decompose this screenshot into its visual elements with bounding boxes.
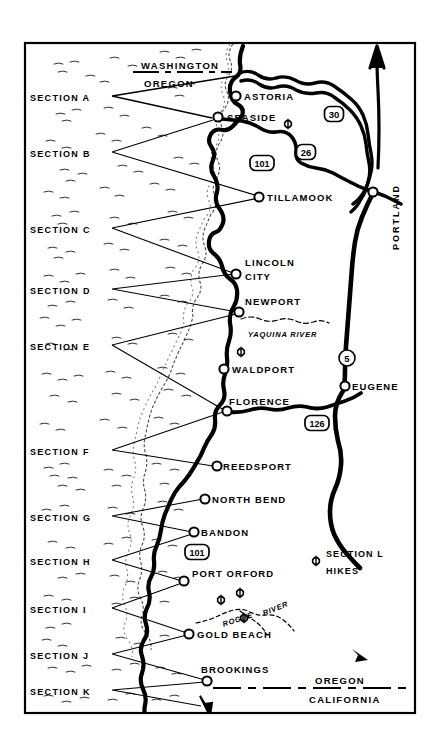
section-label-c[interactable]: SECTION C — [30, 225, 91, 235]
section-label-j[interactable]: SECTION J — [30, 651, 89, 661]
river-label-yaquina-river: YAQUINA RIVER — [248, 330, 317, 339]
oregon-coast-map: 30261015126101 SECTION ASECTION BSECTION… — [0, 0, 437, 753]
city-label-seaside: SEASIDE — [227, 112, 276, 123]
state-label-washington-0: WASHINGTON — [141, 60, 219, 71]
city-label-waldport: WALDPORT — [232, 364, 295, 375]
city-label-bandon: BANDON — [201, 527, 249, 538]
city-dot-gold-beach[interactable] — [184, 629, 193, 638]
state-label-california-1: CALIFORNIA — [309, 694, 381, 705]
section-label-f[interactable]: SECTION F — [30, 447, 90, 457]
highway-shield-number: 5 — [344, 353, 350, 364]
city-dot-brookings[interactable] — [202, 676, 211, 685]
section-label-k[interactable]: SECTION K — [30, 687, 91, 697]
highway-shield-us-101[interactable]: 101 — [250, 156, 274, 171]
city-dot-bandon[interactable] — [189, 527, 198, 536]
city-label-tillamook: TILLAMOOK — [267, 192, 333, 203]
highway-shield-number: 101 — [254, 159, 269, 169]
section-label-b[interactable]: SECTION B — [30, 149, 91, 159]
city-dot-waldport[interactable] — [219, 364, 228, 373]
highway-shield-number: 30 — [329, 109, 340, 120]
section-label-g[interactable]: SECTION G — [30, 513, 91, 523]
city-dot-astoria[interactable] — [231, 91, 240, 100]
city-dot-lincoln[interactable] — [231, 269, 240, 278]
highway-shield-us-101[interactable]: 101 — [185, 545, 209, 560]
state-label-oregon-1: OREGON — [315, 675, 365, 686]
city-label-reedsport: REEDSPORT — [223, 461, 292, 472]
legend-section-l-line2: HIKES — [326, 566, 359, 576]
legend-section-l-line1: SECTION L — [326, 549, 384, 559]
city-label-north-bend: NORTH BEND — [212, 494, 286, 505]
city-dot-newport[interactable] — [234, 307, 243, 316]
city-dot-north-bend[interactable] — [200, 494, 209, 503]
city-label-newport: NEWPORT — [245, 296, 301, 307]
city-dot-reedsport[interactable] — [212, 461, 221, 470]
city-label-florence: FLORENCE — [229, 396, 290, 407]
state-label-oregon-0: OREGON — [144, 78, 194, 89]
rotated-label-portland: PORTLAND — [391, 184, 401, 250]
highway-shield-number: 126 — [309, 419, 324, 429]
city-label-astoria: ASTORIA — [244, 91, 294, 102]
highway-shield-number: 101 — [189, 548, 204, 558]
city-label-port-orford: PORT ORFORD — [192, 568, 274, 579]
highway-shield-us-26[interactable]: 26 — [297, 145, 316, 160]
city-label-eugene: EUGENE — [352, 381, 399, 392]
section-label-e[interactable]: SECTION E — [30, 342, 90, 352]
highway-shield-interstate-5[interactable]: 5 — [339, 350, 355, 366]
city-dot-eugene[interactable] — [340, 381, 349, 390]
city-dot-portland[interactable] — [368, 187, 377, 196]
highway-shield-us-126[interactable]: 126 — [305, 416, 329, 431]
city-dot-florence[interactable] — [222, 406, 231, 415]
section-label-a[interactable]: SECTION A — [30, 93, 90, 103]
city-dot-port-orford[interactable] — [179, 576, 188, 585]
section-label-i[interactable]: SECTION I — [30, 605, 87, 615]
city-label-lincoln: LINCOLN — [245, 257, 295, 268]
city-label-city: CITY — [245, 271, 271, 282]
highway-shield-number: 26 — [301, 147, 312, 158]
highway-shield-us-30[interactable]: 30 — [325, 107, 344, 122]
city-label-gold-beach: GOLD BEACH — [197, 629, 272, 640]
city-dot-seaside[interactable] — [213, 112, 222, 121]
map-canvas: 30261015126101 — [0, 0, 437, 753]
section-label-h[interactable]: SECTION H — [30, 557, 91, 567]
city-label-brookings: BROOKINGS — [201, 664, 270, 675]
city-dot-tillamook[interactable] — [254, 192, 263, 201]
section-label-d[interactable]: SECTION D — [30, 286, 91, 296]
